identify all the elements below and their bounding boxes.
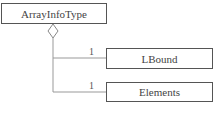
class-name-elements: Elements xyxy=(139,86,180,98)
multiplicity-lbound: 1 xyxy=(89,47,94,57)
class-name-lbound: LBound xyxy=(141,53,177,65)
class-name-arrayinfotype: ArrayInfoType xyxy=(21,8,87,20)
class-box-lbound: LBound xyxy=(106,48,213,69)
multiplicity-elements: 1 xyxy=(89,81,94,91)
aggregation-diamond-icon xyxy=(48,24,58,38)
class-box-elements: Elements xyxy=(106,82,213,102)
class-box-arrayinfotype: ArrayInfoType xyxy=(1,3,107,24)
